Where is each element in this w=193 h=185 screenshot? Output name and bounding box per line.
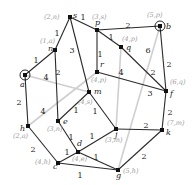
node-label-f: (6,q) xyxy=(170,78,186,86)
node-name-n: n xyxy=(48,44,53,53)
edge-weight-r-f: 3 xyxy=(147,89,152,98)
edge-weight-p-q: 1 xyxy=(108,33,113,42)
edge-weight-s-p: 1 xyxy=(80,13,85,22)
edge-g-b xyxy=(118,26,160,170)
node-s xyxy=(68,15,72,19)
node-a xyxy=(23,73,27,77)
edge-weight-q-f: 2 xyxy=(150,68,155,77)
edge-weight-d-c: 1 xyxy=(64,148,69,157)
node-name-r: r xyxy=(100,60,105,69)
node-e xyxy=(56,119,60,123)
node-d xyxy=(76,150,80,154)
node-label-c: (4,h) xyxy=(35,158,51,166)
node-label-k: (7,m) xyxy=(167,119,185,127)
edge-weight-c-g: 1 xyxy=(77,171,82,180)
node-n xyxy=(53,48,57,52)
edge-weight-d-j: 1 xyxy=(89,132,94,141)
node-name-m: m xyxy=(94,87,102,96)
node-label-e: (3,n) xyxy=(47,125,63,133)
node-label-m: (4,s) xyxy=(78,98,93,106)
node-label-d: (4,e) xyxy=(72,155,88,163)
edge-weight-m-j: 1 xyxy=(92,107,97,116)
node-name-s: s xyxy=(73,11,77,20)
node-label-g: (5,h) xyxy=(123,167,139,175)
node-name-b: b xyxy=(166,22,171,31)
edge-weight-b-f: 2 xyxy=(166,60,171,69)
node-label-j: (3,m) xyxy=(105,136,123,144)
node-h xyxy=(26,124,30,128)
edge-j-k xyxy=(116,129,162,130)
node-label-p: (3,s) xyxy=(92,13,107,21)
edge-weight-h-r: 4 xyxy=(40,107,45,116)
node-name-c: c xyxy=(53,162,58,171)
node-r xyxy=(95,70,99,74)
node-q xyxy=(119,45,123,49)
edge-weight-j-q: 4 xyxy=(118,68,123,77)
node-label-r: (4,p) xyxy=(91,76,107,84)
edge-b-f xyxy=(160,26,166,91)
node-label-h: (2,a) xyxy=(13,132,29,140)
node-name-f: f xyxy=(169,89,175,98)
node-name-k: k xyxy=(166,128,171,137)
edge-weight-s-n: 1 xyxy=(54,29,59,38)
edge-weight-k-g: 2 xyxy=(141,152,146,161)
node-k xyxy=(160,128,164,132)
node-f xyxy=(164,89,168,93)
edge-weight-s-m: 3 xyxy=(69,46,74,55)
node-name-g: g xyxy=(116,171,121,180)
edge-weight-n-e: 2 xyxy=(55,68,60,77)
edge-weight-p-r: 1 xyxy=(97,50,102,59)
edge-weight-h-c: 2 xyxy=(30,145,35,154)
edge-weight-j-k: 2 xyxy=(143,121,148,130)
edge-weight-g-b: 6 xyxy=(145,46,150,55)
edge-weight-a-h: 2 xyxy=(16,98,21,107)
edge-weight-a-m: 4 xyxy=(43,73,48,82)
edge-weight-p-b: 2 xyxy=(125,21,130,30)
node-name-e: e xyxy=(63,117,68,126)
graph-diagram: 113211223122111211112224446 s(2,n)p(3,s)… xyxy=(0,0,193,185)
nodes-layer: s(2,n)p(3,s)b(5,p)n(1,a)q(4,p)ar(4,p)m(4… xyxy=(13,11,186,180)
node-label-b: (5,p) xyxy=(147,11,163,19)
node-label-n: (1,a) xyxy=(40,37,56,45)
node-p xyxy=(95,28,99,32)
node-name-q: q xyxy=(126,43,131,52)
edge-weight-f-k: 2 xyxy=(167,108,172,117)
node-b xyxy=(158,24,162,28)
node-name-d: d xyxy=(77,139,82,148)
edge-weight-n-a: 1 xyxy=(33,56,38,65)
edge-f-k xyxy=(162,91,166,130)
edge-a-h xyxy=(25,75,28,126)
edge-weight-m-e: 1 xyxy=(73,106,78,115)
edge-j-q xyxy=(116,47,121,129)
node-label-q: (4,p) xyxy=(122,35,138,43)
edge-n-a xyxy=(25,50,55,75)
node-label-s: (2,n) xyxy=(44,13,60,21)
node-m xyxy=(87,90,91,94)
node-name-a: a xyxy=(20,80,25,89)
edge-weight-d-g: 1 xyxy=(93,153,98,162)
edge-weight-e-d: 1 xyxy=(68,133,73,142)
edge-n-e xyxy=(55,50,58,121)
